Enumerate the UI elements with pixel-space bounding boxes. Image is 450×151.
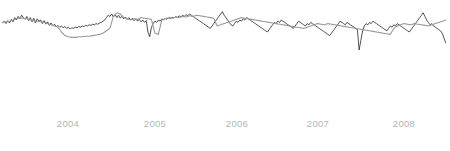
x-tick-label-2006: 2006 xyxy=(226,118,248,130)
plot-svg xyxy=(0,0,450,110)
x-tick-label-2008: 2008 xyxy=(393,118,415,130)
x-tick-label-2007: 2007 xyxy=(307,118,329,130)
line-series-dark xyxy=(3,12,446,50)
sparkline-chart: 20042005200620072008 xyxy=(0,0,450,151)
x-tick-label-2005: 2005 xyxy=(144,118,166,130)
x-axis-tick-labels: 20042005200620072008 xyxy=(0,118,450,136)
x-tick-label-2004: 2004 xyxy=(57,118,79,130)
plot-area xyxy=(0,0,450,110)
